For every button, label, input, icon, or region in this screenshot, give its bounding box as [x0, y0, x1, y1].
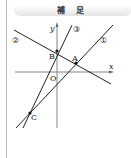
line-1-label: ①: [100, 36, 107, 45]
line-2-label: ②: [12, 36, 19, 45]
line-2: [14, 30, 111, 84]
y-axis-arrow-icon: [56, 22, 59, 27]
point-b-label: B: [49, 52, 55, 61]
x-axis-label: x: [109, 62, 114, 71]
point-c-label: C: [31, 113, 37, 122]
coordinate-diagram: y x O ① ② ③ A B C: [0, 0, 131, 158]
point-b: [55, 49, 58, 52]
y-axis-label: y: [49, 24, 55, 33]
point-a-label: A: [71, 54, 78, 63]
origin-label: O: [50, 74, 57, 83]
line-3-label: ③: [73, 25, 80, 34]
